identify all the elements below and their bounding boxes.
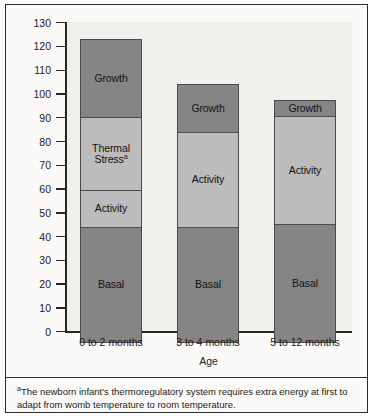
y-tick-20: 20 <box>56 283 65 284</box>
segment-label-growth-bar1: Growth <box>94 73 127 84</box>
y-tick-50: 50 <box>56 212 65 213</box>
y-tick-70: 70 <box>56 165 65 166</box>
segment-growth-bar3[interactable]: Growth <box>274 100 336 117</box>
y-tick-120: 120 <box>56 46 65 47</box>
segment-label-thermal-stress-bar1: Thermal Stressa <box>92 143 130 165</box>
y-tick-80: 80 <box>56 141 65 142</box>
bar-3-to-4-months[interactable]: Growth Activity Basal <box>177 84 239 342</box>
y-tick-30: 30 <box>56 260 65 261</box>
segment-thermal-stress-bar1[interactable]: Thermal Stressa <box>80 117 142 191</box>
y-axis-line <box>65 22 67 332</box>
segment-basal-bar1[interactable]: Basal <box>80 227 142 344</box>
y-tick-label-110: 110 <box>34 65 51 76</box>
y-tick-label-100: 100 <box>33 89 51 100</box>
y-tick-label-120: 120 <box>33 41 51 52</box>
segment-basal-bar3[interactable]: Basal <box>274 224 336 343</box>
y-tick-label-80: 80 <box>39 136 51 147</box>
footnote-marker-thermal: a <box>124 152 128 159</box>
segment-label-basal-bar2: Basal <box>195 279 221 290</box>
x-category-label-0-to-2-months: 0 to 2 months <box>59 336 163 348</box>
y-tick-label-70: 70 <box>39 160 51 171</box>
y-tick-label-10: 10 <box>39 303 51 314</box>
y-tick-label-40: 40 <box>39 231 51 242</box>
segment-label-activity-bar2: Activity <box>192 174 224 185</box>
y-tick-90: 90 <box>56 117 65 118</box>
footnote: aThe newborn infant's thermoregulatory s… <box>17 386 355 412</box>
footnote-divider <box>6 377 367 378</box>
y-tick-60: 60 <box>56 188 65 189</box>
footnote-text: The newborn infant's thermoregulatory sy… <box>17 386 347 410</box>
segment-label-activity-bar3: Activity <box>289 165 321 176</box>
y-tick-10: 10 <box>56 307 65 308</box>
y-tick-40: 40 <box>56 236 65 237</box>
segment-label-growth-bar3: Growth <box>288 103 321 114</box>
chart-plot-area: 130 120 110 100 90 80 70 60 50 40 30 20 … <box>32 22 352 342</box>
segment-growth-bar2[interactable]: Growth <box>177 84 239 134</box>
segment-activity-bar1[interactable]: Activity <box>80 190 142 228</box>
segment-label-basal-bar1: Basal <box>98 279 124 290</box>
y-tick-label-0: 0 <box>45 326 51 337</box>
y-tick-label-60: 60 <box>39 184 51 195</box>
segment-label-basal-bar3: Basal <box>292 278 318 289</box>
segment-activity-bar2[interactable]: Activity <box>177 132 239 227</box>
y-tick-110: 110 <box>56 70 65 71</box>
y-tick-0: 0 <box>56 331 65 332</box>
y-tick-130: 130 <box>56 22 65 23</box>
y-tick-label-30: 30 <box>39 255 51 266</box>
y-tick-100: 100 <box>56 93 65 94</box>
x-category-label-5-to-12-months: 5 to 12 months <box>253 336 357 348</box>
figure-frame: 130 120 110 100 90 80 70 60 50 40 30 20 … <box>5 4 368 413</box>
segment-activity-bar3[interactable]: Activity <box>274 116 336 225</box>
x-category-label-3-to-4-months: 3 to 4 months <box>156 336 260 348</box>
y-tick-label-90: 90 <box>39 113 51 124</box>
y-tick-label-20: 20 <box>39 279 51 290</box>
segment-label-activity-bar1: Activity <box>95 203 127 214</box>
y-tick-label-130: 130 <box>33 17 51 28</box>
x-axis-title: Age <box>65 355 352 367</box>
y-tick-label-50: 50 <box>39 208 51 219</box>
segment-growth-bar1[interactable]: Growth <box>80 39 142 117</box>
bar-0-to-2-months[interactable]: Growth Thermal Stressa Activity Basal <box>80 39 142 342</box>
bar-5-to-12-months[interactable]: Growth Activity Basal <box>274 100 336 342</box>
segment-label-growth-bar2: Growth <box>191 103 224 114</box>
segment-basal-bar2[interactable]: Basal <box>177 227 239 344</box>
